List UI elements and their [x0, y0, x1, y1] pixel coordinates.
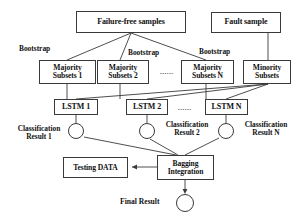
- node-bagging-integration-line2: Integration: [168, 168, 204, 176]
- node-failure-free-samples[interactable]: Failure-free samples: [76, 11, 186, 33]
- node-majority-subsets-2-line2: Subsets 2: [108, 72, 137, 80]
- label-bootstrap-2-text: Bootstrap: [128, 49, 159, 57]
- ellipsis-subsets-row: ......: [160, 68, 174, 76]
- label-final-result: Final Result: [120, 198, 159, 206]
- node-minority-subsets-line2: Subsets: [255, 72, 279, 80]
- node-majority-subsets-n-line2: Subsets N: [192, 72, 223, 80]
- label-final-result-text: Final Result: [120, 198, 159, 206]
- node-lstm-1[interactable]: LSTM 1: [54, 99, 98, 115]
- label-classification-result-1-line2: Result 1: [10, 133, 68, 141]
- node-lstm-n-label: LSTM N: [212, 103, 242, 111]
- label-bootstrap-1-text: Bootstrap: [19, 45, 50, 53]
- ellipsis-subsets-row-text: ......: [160, 68, 174, 76]
- node-majority-subsets-1-line2: Subsets 1: [53, 72, 82, 80]
- label-bootstrap-3-text: Bootstrap: [199, 48, 230, 56]
- node-majority-subsets-n[interactable]: Majority Subsets N: [181, 60, 234, 84]
- node-bagging-integration[interactable]: Bagging Integration: [157, 155, 214, 180]
- node-majority-subsets-2[interactable]: Majority Subsets 2: [97, 60, 149, 84]
- node-fault-sample-label: Fault sample: [224, 18, 267, 26]
- node-fault-sample[interactable]: Fault sample: [211, 12, 281, 33]
- label-bootstrap-3: Bootstrap: [199, 48, 230, 56]
- circle-classification-result-n[interactable]: [218, 123, 234, 139]
- circle-final-result[interactable]: [176, 194, 194, 212]
- node-lstm-2-label: LSTM 2: [133, 103, 161, 111]
- circle-classification-result-1[interactable]: [68, 123, 84, 139]
- label-classification-result-n: Classification Result N: [237, 121, 295, 137]
- flowchart-diagram: Failure-free samples Fault sample Bootst…: [0, 0, 302, 219]
- label-classification-result-n-line2: Result N: [237, 129, 295, 137]
- ellipsis-lstm-row-text: ......: [178, 104, 192, 112]
- label-bootstrap-2: Bootstrap: [128, 49, 159, 57]
- node-majority-subsets-1[interactable]: Majority Subsets 1: [39, 60, 96, 84]
- node-lstm-n[interactable]: LSTM N: [205, 99, 248, 115]
- circle-classification-result-2[interactable]: [139, 123, 155, 139]
- node-minority-subsets[interactable]: Minority Subsets: [243, 60, 291, 84]
- node-lstm-2[interactable]: LSTM 2: [126, 99, 168, 115]
- label-classification-result-1: Classification Result 1: [10, 125, 68, 141]
- node-lstm-1-label: LSTM 1: [62, 103, 90, 111]
- node-failure-free-samples-label: Failure-free samples: [97, 18, 165, 26]
- label-bootstrap-1: Bootstrap: [19, 45, 50, 53]
- ellipsis-lstm-row: ......: [178, 104, 192, 112]
- label-classification-result-2: Classification Result 2: [158, 121, 216, 137]
- label-classification-result-2-line2: Result 2: [158, 129, 216, 137]
- node-testing-data[interactable]: Testing DATA: [63, 157, 128, 178]
- node-testing-data-label: Testing DATA: [73, 164, 117, 172]
